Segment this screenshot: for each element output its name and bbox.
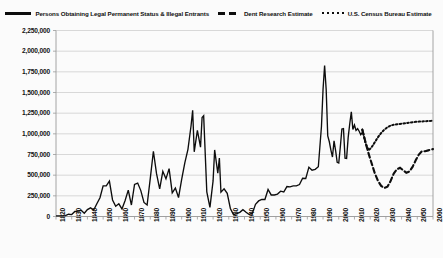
series-line (56, 65, 362, 215)
series-line (362, 121, 433, 151)
series-line (362, 130, 433, 188)
x-tick-label: 2060 (436, 207, 443, 221)
